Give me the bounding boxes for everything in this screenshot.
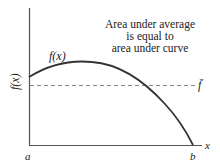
x-tick-b: b [190, 150, 196, 162]
average-value-diagram: f(x) f(x) x f̄ a b Area under average is… [0, 0, 220, 167]
x-tick-a: a [25, 150, 31, 162]
average-label: f̄ [198, 78, 203, 92]
y-axis-label: f(x) [8, 73, 22, 90]
function-curve [29, 62, 193, 145]
annotation-line-3: area under curve [112, 42, 189, 54]
annotation: Area under average is equal to area unde… [105, 18, 195, 54]
curve-label: f(x) [49, 49, 66, 63]
x-axis-label: x [204, 139, 210, 151]
